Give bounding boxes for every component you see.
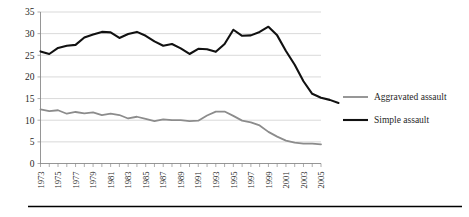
y-tick-label-5: 5 (30, 137, 35, 147)
series-line-aggravated-assault (41, 109, 322, 144)
x-tick-label-1981: 1981 (106, 172, 116, 189)
y-tick-label-15: 15 (25, 94, 35, 104)
y-tick-label-0: 0 (30, 159, 35, 169)
gridlines (38, 12, 322, 164)
assault-rates-line-chart: 05101520253035 1973197519771979198119831… (0, 0, 469, 217)
x-tick-label-1973: 1973 (36, 172, 46, 189)
x-tick-label-1997: 1997 (246, 172, 256, 189)
x-tick-label-1991: 1991 (193, 172, 203, 189)
x-tick-label-2001: 2001 (281, 172, 291, 189)
x-tick-label-1987: 1987 (158, 172, 168, 189)
x-axis-tick-labels: 1973197519771979198119831985198719891991… (36, 172, 327, 189)
x-tick-label-1995: 1995 (229, 172, 239, 189)
y-tick-label-30: 30 (25, 29, 35, 39)
series-lines (41, 27, 339, 145)
x-tick-label-2005: 2005 (316, 172, 326, 189)
chart-figure: 05101520253035 1973197519771979198119831… (0, 0, 469, 217)
x-tick-label-1999: 1999 (264, 172, 274, 189)
x-tick-label-1985: 1985 (141, 172, 151, 189)
chart-legend: Aggravated assaultSimple assault (343, 92, 447, 125)
y-tick-label-35: 35 (25, 7, 35, 17)
y-tick-label-10: 10 (25, 116, 35, 126)
x-tick-label-1993: 1993 (211, 172, 221, 189)
series-line-simple-assault (41, 27, 339, 103)
y-axis-tick-labels: 05101520253035 (25, 7, 35, 169)
legend-label-simple-assault: Simple assault (374, 115, 430, 125)
x-axis-ticks (41, 164, 322, 168)
x-tick-label-2003: 2003 (299, 172, 309, 189)
x-tick-label-1979: 1979 (88, 172, 98, 189)
x-tick-label-1983: 1983 (123, 172, 133, 189)
x-tick-label-1975: 1975 (53, 172, 63, 189)
y-tick-label-25: 25 (25, 51, 35, 61)
x-tick-label-1977: 1977 (71, 172, 81, 189)
legend-label-aggravated-assault: Aggravated assault (374, 92, 447, 102)
x-tick-label-1989: 1989 (176, 172, 186, 189)
y-tick-label-20: 20 (25, 72, 35, 82)
